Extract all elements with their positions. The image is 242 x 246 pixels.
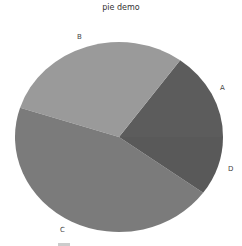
slice-label-a: A	[220, 84, 225, 92]
slice-label-c: C	[60, 226, 65, 234]
pie-chart	[0, 0, 242, 246]
slice-label-d: D	[228, 165, 233, 173]
slice-label-b: B	[77, 33, 82, 41]
